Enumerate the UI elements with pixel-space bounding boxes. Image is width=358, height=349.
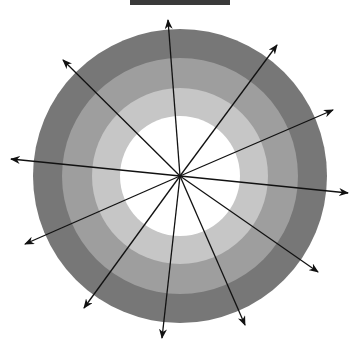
concentric-ring-diagram bbox=[0, 0, 358, 349]
